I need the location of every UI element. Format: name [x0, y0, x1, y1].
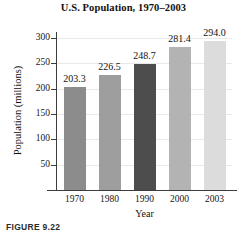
- y-axis-tick-label: 300: [24, 33, 50, 42]
- y-axis-tick-label: 250: [24, 58, 50, 67]
- y-axis-line: [56, 32, 57, 191]
- bar: [99, 75, 121, 190]
- y-axis-tick-mark: [51, 89, 57, 90]
- y-axis-tick-label: 50: [24, 160, 50, 169]
- y-axis-tick-mark: [51, 63, 57, 64]
- figure-caption: FIGURE 9.22: [6, 222, 60, 232]
- y-axis-tick-mark: [51, 165, 57, 166]
- y-axis-tick-mark: [51, 114, 57, 115]
- y-axis-tick-mark: [51, 139, 57, 140]
- bar-value-label: 294.0: [197, 28, 233, 38]
- bar: [64, 87, 86, 190]
- y-axis-tick-label: 200: [24, 84, 50, 93]
- x-axis-tick-label: 1980: [92, 194, 128, 204]
- figure-container: U.S. Population, 1970–2003 Population (m…: [0, 0, 247, 238]
- x-axis-tick-label: 2003: [197, 194, 233, 204]
- y-axis-tick-mark: [51, 38, 57, 39]
- y-axis-tick-label: 100: [24, 134, 50, 143]
- x-axis-tick-label: 1990: [127, 194, 163, 204]
- bar-value-label: 203.3: [57, 74, 93, 84]
- y-axis-tick-labels: 50100150200250300: [20, 0, 50, 238]
- gridline: [57, 38, 232, 39]
- x-axis-line: [47, 190, 237, 191]
- y-axis-tick-label: 150: [24, 109, 50, 118]
- bar-value-label: 226.5: [92, 62, 128, 72]
- x-axis-tick-label: 1970: [57, 194, 93, 204]
- x-axis-title: Year: [57, 208, 232, 219]
- bar: [204, 41, 226, 190]
- bar-value-label: 281.4: [162, 34, 198, 44]
- x-axis-tick-label: 2000: [162, 194, 198, 204]
- bar-value-label: 248.7: [127, 51, 163, 61]
- bar: [134, 64, 156, 190]
- bar: [169, 47, 191, 190]
